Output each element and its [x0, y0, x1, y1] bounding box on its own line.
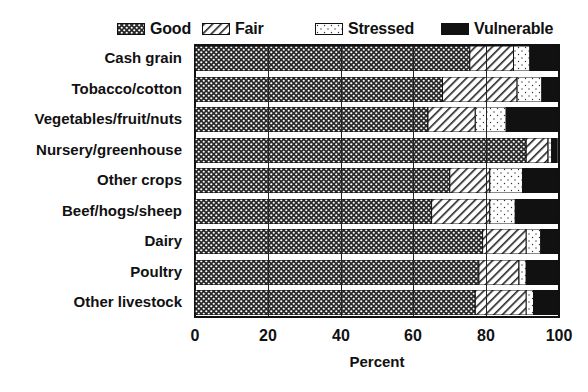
- bar-segment-stressed: [526, 229, 541, 254]
- bar-segment-stressed: [490, 168, 523, 193]
- stressed-pattern-swatch-icon: [315, 23, 343, 35]
- bar-row: [195, 199, 561, 224]
- legend-item-vulnerable: Vulnerable: [441, 19, 553, 39]
- category-label: Dairy: [144, 232, 182, 250]
- bar-segment-vulnerable: [515, 199, 559, 224]
- bar-segment-good: [195, 290, 475, 315]
- bar-segment-fair: [443, 77, 518, 102]
- gridline: [268, 46, 269, 316]
- legend: Good Fair Stressed Vulnerable: [0, 19, 588, 39]
- vulnerable-solid-swatch-icon: [441, 23, 469, 35]
- bar-segment-vulnerable: [542, 77, 559, 102]
- bar-segment-fair: [526, 138, 548, 163]
- category-label: Vegetables/fruit/nuts: [34, 110, 182, 128]
- legend-item-fair: Fair: [202, 19, 264, 39]
- bar-segment-good: [195, 77, 443, 102]
- bar-segment-vulnerable: [541, 229, 559, 254]
- bar-row: [195, 290, 561, 315]
- bar-segment-fair: [432, 199, 490, 224]
- x-tick-label: 80: [477, 327, 495, 345]
- bar-row: [195, 229, 561, 254]
- category-label: Nursery/greenhouse: [36, 141, 182, 159]
- bar-segment-good: [195, 46, 470, 71]
- x-tick-label: 0: [191, 327, 200, 345]
- legend-label: Fair: [235, 20, 264, 38]
- legend-item-good: Good: [117, 19, 191, 39]
- bar-segment-stressed: [519, 260, 526, 285]
- x-tick-label: 100: [546, 327, 573, 345]
- bar-segment-good: [195, 260, 479, 285]
- gridline: [413, 46, 414, 316]
- bar-segment-stressed: [526, 290, 533, 315]
- category-label: Other crops: [97, 171, 182, 189]
- bar-segment-stressed: [490, 199, 516, 224]
- category-label: Other livestock: [74, 293, 182, 311]
- bar-segment-stressed: [514, 46, 530, 71]
- x-tick-label: 20: [259, 327, 277, 345]
- bar-row: [195, 138, 561, 163]
- bar-row: [195, 46, 561, 71]
- bar-segment-vulnerable: [552, 138, 558, 163]
- bar-segment-fair: [475, 290, 526, 315]
- bar-segment-good: [195, 168, 450, 193]
- bar-row: [195, 168, 561, 193]
- x-tick-label: 40: [332, 327, 350, 345]
- gridline: [341, 46, 342, 316]
- legend-label: Vulnerable: [474, 20, 553, 38]
- category-label: Beef/hogs/sheep: [62, 202, 182, 220]
- bar-segment-vulnerable: [526, 260, 559, 285]
- bar-segment-fair: [479, 260, 519, 285]
- bar-segment-stressed: [475, 107, 506, 132]
- category-label: Poultry: [130, 263, 182, 281]
- bar-segment-fair: [483, 229, 527, 254]
- bar-segment-good: [195, 229, 483, 254]
- bar-segment-vulnerable: [523, 168, 559, 193]
- bar-segment-good: [195, 199, 432, 224]
- legend-item-stressed: Stressed: [315, 19, 414, 39]
- bar-row: [195, 260, 561, 285]
- bar-segment-stressed: [548, 138, 552, 163]
- bar-segment-stressed: [517, 77, 542, 102]
- bar-row: [195, 77, 561, 102]
- legend-label: Good: [150, 20, 191, 38]
- bar-segment-good: [195, 107, 428, 132]
- category-label: Cash grain: [104, 49, 182, 67]
- bar-segment-vulnerable: [506, 107, 559, 132]
- good-pattern-swatch-icon: [117, 23, 145, 35]
- fair-pattern-swatch-icon: [202, 23, 230, 35]
- gridline: [486, 46, 487, 316]
- category-label: Tobacco/cotton: [71, 80, 182, 98]
- bar-segment-fair: [450, 168, 490, 193]
- bar-segment-fair: [470, 46, 514, 71]
- x-axis-title: Percent: [349, 353, 404, 370]
- bar-segment-good: [195, 138, 526, 163]
- bar-row: [195, 107, 561, 132]
- bar-segment-fair: [428, 107, 475, 132]
- bar-segment-vulnerable: [534, 290, 560, 315]
- legend-label: Stressed: [348, 20, 414, 38]
- x-tick-label: 60: [404, 327, 422, 345]
- bar-segment-vulnerable: [530, 46, 559, 71]
